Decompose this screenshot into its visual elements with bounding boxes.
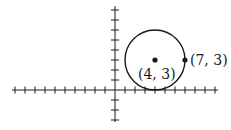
point-on-circle-label: (7, 3) bbox=[190, 52, 228, 68]
coordinate-plane: (4, 3) (7, 3) bbox=[0, 0, 231, 130]
axes bbox=[12, 6, 218, 122]
center-point-label: (4, 3) bbox=[138, 66, 176, 82]
center-point bbox=[152, 57, 157, 62]
point-on-circle bbox=[182, 57, 187, 62]
